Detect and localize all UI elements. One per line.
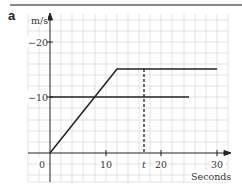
y-tick-20: −20	[28, 37, 48, 48]
velocity-time-chart: m/s −20 −10 0 10 t 20 30 Seconds	[0, 0, 242, 194]
x-axis-arrow-icon	[224, 151, 231, 156]
t-label: t	[142, 159, 146, 170]
y-tick-10: −10	[28, 92, 48, 103]
y-axis-arrow-icon	[48, 13, 53, 20]
x-tick-30: 30	[211, 159, 223, 170]
x-axis-label: Seconds	[191, 171, 231, 182]
x-tick-20: 20	[155, 159, 167, 170]
x-tick-0: 0	[39, 159, 45, 170]
grid	[28, 14, 228, 182]
x-tick-10: 10	[100, 159, 112, 170]
series-accelerating	[50, 69, 217, 153]
y-axis-label: m/s	[31, 15, 48, 26]
